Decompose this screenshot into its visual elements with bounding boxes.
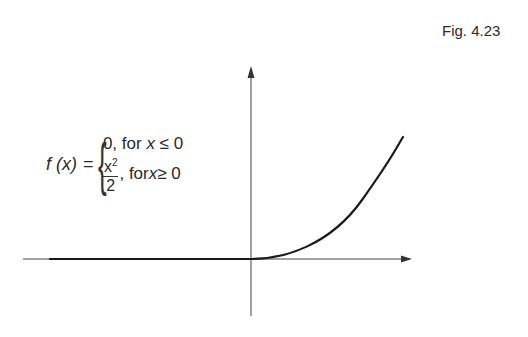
formula-cases: 0, for x ≤ 0 x2 2 , for x ≥ 0 [103,134,183,193]
formula-lhs: f (x) [46,154,77,175]
case1-condition-prefix: , for [112,134,146,153]
case2-var: x [149,164,158,184]
y-axis-arrow-icon [248,66,255,78]
case2-condition-suffix: ≥ 0 [157,164,181,184]
case1-condition-suffix: ≤ 0 [155,134,183,153]
case1-var: x [146,134,155,153]
piecewise-formula: f (x) = { 0, for x ≤ 0 x2 2 , for x ≥ 0 [46,126,183,202]
formula-case-2: x2 2 , for x ≥ 0 [103,154,183,193]
x-axis-arrow-icon [401,256,412,263]
case2-condition-prefix: , for [119,164,148,184]
left-brace-icon: { [98,135,107,193]
formula-equals: = [83,154,94,175]
case2-exponent: 2 [112,157,118,168]
case2-denominator: 2 [106,177,115,194]
formula-case-1: 0, for x ≤ 0 [103,134,183,154]
